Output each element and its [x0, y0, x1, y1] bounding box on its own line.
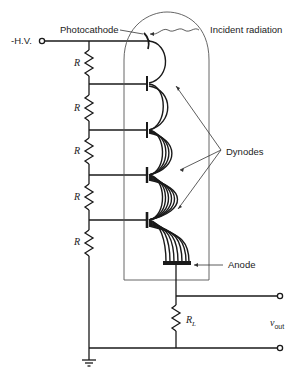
vout-label: vout — [270, 318, 284, 330]
vout-terminal-bottom — [277, 345, 282, 350]
resistor-1 — [85, 50, 93, 76]
resistor-label-4: R — [74, 192, 80, 202]
hv-terminal — [39, 38, 44, 43]
dynodes-label: Dynodes — [226, 147, 264, 157]
photocathode-leader — [120, 30, 143, 34]
anode-label: Anode — [228, 260, 255, 270]
hv-label: -H.V. — [11, 36, 32, 46]
photocathode-label: Photocathode — [60, 25, 119, 35]
resistor-3 — [85, 138, 93, 164]
resistor-label-2: R — [74, 103, 80, 113]
resistor-label-1: R — [74, 58, 80, 68]
load-resistor — [172, 305, 180, 331]
incident-radiation-wave — [150, 29, 199, 34]
resistor-5 — [85, 230, 93, 256]
resistor-2 — [85, 95, 93, 121]
incident-radiation-label: Incident radiation — [210, 25, 282, 35]
anode-plate — [163, 261, 191, 265]
resistor-4 — [85, 184, 93, 210]
vout-terminal-top — [277, 293, 282, 298]
load-resistor-label: RL — [186, 315, 196, 328]
electron-path-0 — [149, 41, 166, 83]
tube-envelope — [124, 12, 209, 280]
resistor-label-3: R — [74, 146, 80, 156]
photomultiplier-diagram — [0, 0, 295, 383]
resistor-label-5: R — [74, 237, 80, 247]
